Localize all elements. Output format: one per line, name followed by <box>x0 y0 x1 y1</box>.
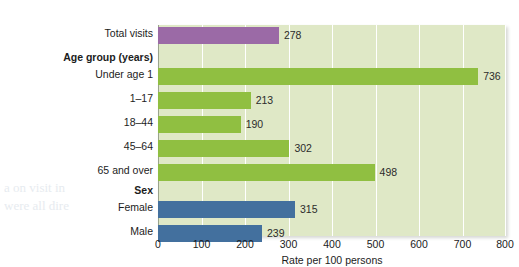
x-tick-700: 700 <box>454 238 472 250</box>
category-label-1-17: 1–17 <box>40 90 153 107</box>
bar-value-total-visits: 278 <box>279 27 302 44</box>
category-label-female: Female <box>40 199 153 216</box>
bar-value-under-age-1: 736 <box>478 68 501 85</box>
bar-value-65-and-over: 498 <box>375 164 398 181</box>
bar-value-45-64: 302 <box>289 140 312 157</box>
bar-65-and-over[interactable] <box>158 164 375 181</box>
plot-area: 278 736 213 190 302 498 315 239 <box>158 25 506 236</box>
bar-45-64[interactable] <box>158 140 289 157</box>
bar-18-44[interactable] <box>158 116 241 133</box>
x-tick-300: 300 <box>280 238 298 250</box>
bars-layer: 278 736 213 190 302 498 315 239 <box>158 25 506 236</box>
bar-chart-figure: Total visits Age group (years) Under age… <box>40 16 519 267</box>
category-group-header-age: Age group (years) <box>40 49 153 66</box>
x-axis-tick-labels: 0 100 200 300 400 500 600 700 800 <box>158 238 506 252</box>
x-tick-0: 0 <box>155 238 161 250</box>
category-label-65-and-over: 65 and over <box>40 162 153 179</box>
bar-1-17[interactable] <box>158 92 251 109</box>
category-axis-labels: Total visits Age group (years) Under age… <box>40 25 153 236</box>
category-label-male: Male <box>40 223 153 240</box>
bar-under-age-1[interactable] <box>158 68 478 85</box>
x-tick-400: 400 <box>323 238 341 250</box>
x-tick-600: 600 <box>410 238 428 250</box>
bar-value-1-17: 213 <box>251 92 274 109</box>
x-tick-200: 200 <box>236 238 254 250</box>
x-axis-title: Rate per 100 persons <box>158 254 506 266</box>
bar-value-female: 315 <box>295 201 318 218</box>
x-tick-800: 800 <box>496 238 514 250</box>
category-label-45-64: 45–64 <box>40 138 153 155</box>
bar-value-18-44: 190 <box>241 116 264 133</box>
bar-total-visits[interactable] <box>158 27 279 44</box>
x-tick-500: 500 <box>367 238 385 250</box>
x-tick-100: 100 <box>193 238 211 250</box>
bar-female[interactable] <box>158 201 295 218</box>
category-label-total-visits: Total visits <box>40 25 153 42</box>
category-label-under-age-1: Under age 1 <box>40 66 153 83</box>
category-label-18-44: 18–44 <box>40 114 153 131</box>
category-group-header-sex: Sex <box>40 182 153 199</box>
